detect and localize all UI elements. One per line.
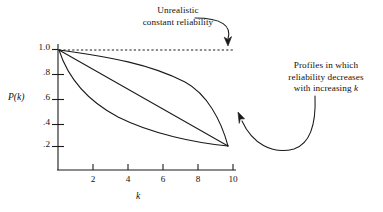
figure-container: 1.0 .8 .6 .4 .2 2 4 6 8 10 P(k) k Unreal… <box>0 0 383 212</box>
y-tick-label-4: .4 <box>24 117 50 127</box>
y-tick-label-5: .2 <box>24 139 50 149</box>
y-axis-title: P(k) <box>8 91 25 102</box>
right-annotation-text: Profiles in which reliability decreases … <box>270 60 382 95</box>
y-tick-label-2: .8 <box>24 67 50 77</box>
right-annotation-line2: reliability decreases <box>270 72 382 84</box>
y-tick-label-1: 1.0 <box>24 42 50 52</box>
x-axis-title: k <box>136 190 140 201</box>
y-tick-label-3: .6 <box>24 92 50 102</box>
x-tick-label-3: 6 <box>153 174 173 184</box>
x-tick-label-5: 10 <box>223 174 243 184</box>
top-annotation-line1: Unrealistic <box>126 5 230 17</box>
right-annotation-line3: with increasing k <box>270 83 382 95</box>
top-annotation-text: Unrealistic constant reliability <box>126 5 230 28</box>
series-linear-profile <box>59 50 228 146</box>
x-axis-ticks <box>93 164 233 170</box>
right-annotation-line3-prefix: with increasing <box>294 83 354 93</box>
x-tick-label-1: 2 <box>83 174 103 184</box>
right-annotation-arrow <box>238 96 315 151</box>
x-tick-label-4: 8 <box>188 174 208 184</box>
top-annotation-line2: constant reliability <box>126 17 230 29</box>
x-tick-label-2: 4 <box>118 174 138 184</box>
right-annotation-line1: Profiles in which <box>270 60 382 72</box>
right-annotation-k-symbol: k <box>354 83 358 93</box>
